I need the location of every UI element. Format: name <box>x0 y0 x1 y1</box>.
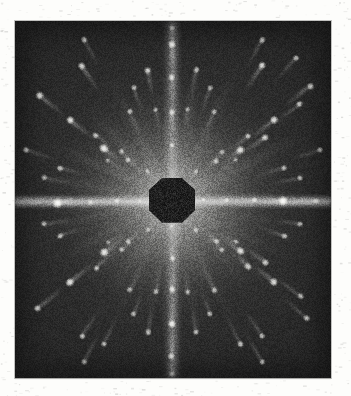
figure-caption <box>0 0 1 1</box>
film-grain-texture <box>15 21 331 378</box>
diffraction-film-plate <box>15 21 331 378</box>
scanned-page <box>0 0 351 396</box>
